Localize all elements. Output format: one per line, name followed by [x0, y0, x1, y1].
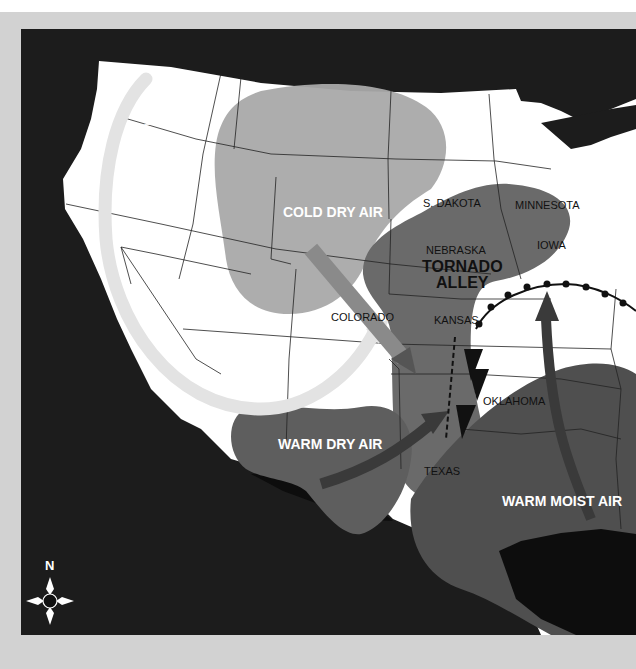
state-label-oklahoma: OKLAHOMA: [483, 395, 545, 407]
state-label-south-dakota: S. DAKOTA: [423, 197, 481, 209]
warm-dry-air-label: WARM DRY AIR: [278, 436, 382, 452]
state-label-kansas: KANSAS: [434, 314, 479, 326]
state-label-nebraska: NEBRASKA: [426, 244, 486, 256]
tornado-alley-line2: ALLEY: [422, 275, 503, 291]
tornado-alley-label: TORNADO ALLEY: [422, 259, 503, 291]
warm-dry-air-mass: [231, 406, 412, 534]
compass-north-label: N: [45, 558, 54, 573]
map-graphic: [21, 29, 636, 635]
state-label-minnesota: MINNESOTA: [515, 199, 580, 211]
state-label-texas: TEXAS: [424, 465, 460, 477]
warm-moist-air-label: WARM MOIST AIR: [502, 493, 622, 509]
gulf-overlay: [499, 529, 636, 635]
state-label-iowa: IOWA: [537, 239, 566, 251]
tornado-alley-map: COLD DRY AIR WARM DRY AIR WARM MOIST AIR…: [21, 29, 636, 635]
tornado-alley-line1: TORNADO: [422, 259, 503, 275]
state-label-colorado: COLORADO: [331, 311, 394, 323]
cold-dry-air-label: COLD DRY AIR: [283, 204, 383, 220]
compass-rose: [26, 577, 74, 625]
